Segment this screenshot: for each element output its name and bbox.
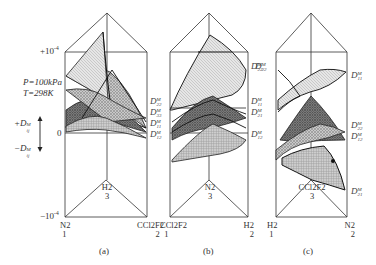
panel-b-caption: (b)	[203, 246, 214, 256]
temperature-label: T=298K	[23, 89, 54, 98]
axis-zero-tick: 0	[57, 129, 62, 138]
axis-bottom-tick: −10-4	[40, 212, 59, 222]
panel-a-d-label-2: DM33	[150, 107, 162, 118]
panel-c-right-index: 2	[351, 229, 355, 239]
panel-c-d-label-3: DM12	[351, 131, 363, 142]
negative-d-label: −DMij	[14, 144, 33, 153]
panel-c-caption: (c)	[303, 246, 313, 256]
panel-b-left-index: 1	[164, 229, 168, 239]
panel-b-right-index: 2	[250, 229, 254, 239]
axis-top-tick: +10-4	[40, 47, 59, 57]
panel-c-d-label-1: DM11	[351, 70, 362, 81]
negative-d-sup: M	[27, 147, 31, 152]
panel-b-back-index: 3	[208, 191, 212, 201]
panel-c-d-label-4: DM21	[351, 186, 363, 197]
panel-b-back-vertex: N23	[202, 183, 218, 201]
panel-b-d-label-4: DM12	[251, 129, 263, 140]
d-sub: 12	[157, 135, 162, 140]
panel-a-left-vertex: N2 1	[60, 221, 70, 239]
axis-top-tick-value: +10	[40, 46, 54, 56]
axis-bottom-tick-value: −10	[40, 211, 54, 221]
d-sub: 22	[262, 67, 267, 72]
panel-c-back-vertex: CCl2F23	[296, 183, 328, 201]
d-sub: 21	[258, 113, 263, 118]
panel-c-right-vertex: N22	[341, 221, 355, 239]
panel-b-d-label-3: DM21	[251, 107, 263, 118]
panel-b-left-vertex: CCl2F2 1	[160, 221, 187, 239]
panel-a-d-label-4: DM12	[150, 129, 162, 140]
panel-c-d-label-2: DM22	[351, 120, 363, 131]
positive-d-sup: M	[27, 122, 31, 127]
panel-c-left-d-label-1: DM22	[255, 61, 267, 72]
negative-d-text: −D	[14, 143, 27, 153]
panel-a-back-vertex: H23	[99, 183, 115, 201]
d-sub: 12	[358, 137, 363, 142]
negative-d-sub: ij	[27, 153, 30, 158]
panel-a-d-label-1: DM22	[150, 96, 162, 107]
panel-a-left-index: 1	[62, 229, 66, 239]
positive-d-sub: ij	[27, 128, 30, 133]
panel-c-back-index: 3	[310, 191, 314, 201]
d-sub: 21	[358, 192, 363, 197]
panel-a-right-vertex: CCl2F22	[130, 221, 164, 239]
panel-b-right-vertex: H22	[238, 221, 254, 239]
panel-a-caption: (a)	[99, 246, 109, 256]
panel-b-d-label-2: DM11	[251, 96, 262, 107]
panel-a-d-label-3: DM11	[150, 118, 161, 129]
panel-c-left-index: 1	[269, 229, 273, 239]
panel-a-back-index: 3	[105, 191, 109, 201]
pressure-text: P=100kPa	[23, 77, 62, 87]
pressure-label: P=100kPa	[23, 78, 62, 87]
d-sub: 12	[258, 135, 263, 140]
axis-top-tick-exp: -4	[54, 45, 59, 51]
axis-bottom-tick-exp: -4	[54, 210, 59, 216]
panel-c-left-vertex: H2 1	[267, 221, 277, 239]
positive-d-text: +D	[14, 118, 27, 128]
positive-d-label: +DMij	[14, 119, 33, 128]
d-sub: 11	[358, 76, 363, 81]
temperature-text: T=298K	[23, 88, 54, 98]
